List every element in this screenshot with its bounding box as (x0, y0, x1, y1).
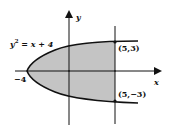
point-5-3 (113, 40, 116, 43)
y-axis-arrow-icon (65, 10, 73, 18)
vertex-label: −4 (14, 74, 26, 84)
x-axis-label: x (154, 77, 159, 87)
equation-label: y2 = x + 4 (10, 38, 53, 49)
x5-axis-dot (114, 70, 116, 72)
point-5-neg3 (113, 99, 116, 102)
origin-dot (68, 70, 70, 72)
point-bottom-label: (5,−3) (118, 89, 146, 99)
y-axis-label: y (76, 12, 81, 22)
parabola-region-diagram (0, 0, 170, 132)
x-axis-arrow-icon (154, 67, 162, 75)
point-top-label: (5,3) (118, 43, 140, 53)
